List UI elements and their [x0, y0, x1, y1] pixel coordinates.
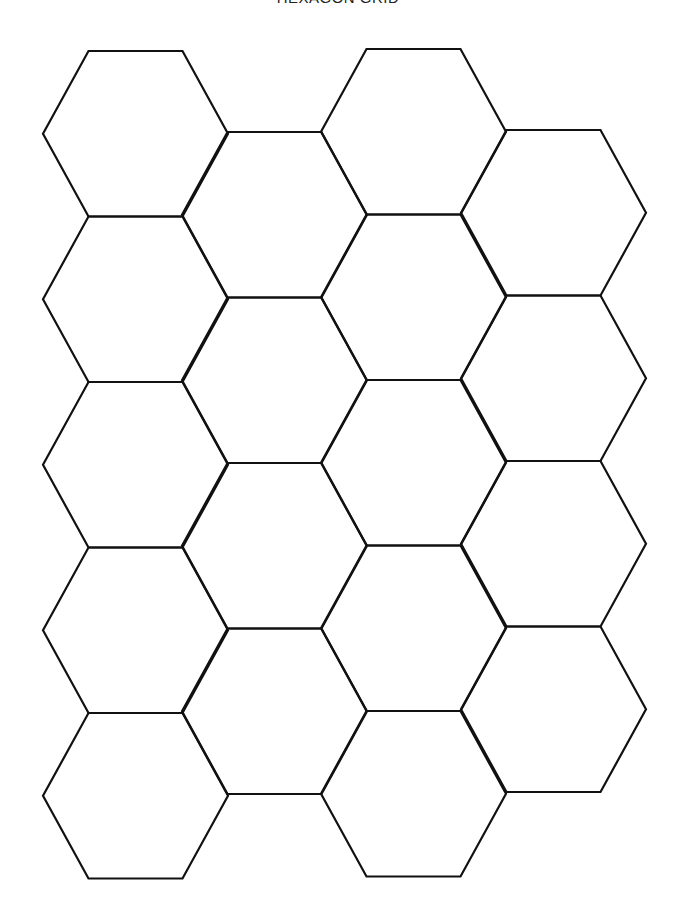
hexagon-cell — [182, 629, 367, 795]
hexagon-cell — [461, 296, 646, 462]
hexagon-cell — [321, 711, 506, 877]
hexagon-cell — [321, 215, 506, 381]
hexagon-cell — [321, 380, 506, 546]
hexagon-cell — [43, 217, 228, 383]
hexagon-cell — [321, 546, 506, 712]
hexagon-cell — [321, 49, 506, 215]
hexagon-cell — [43, 382, 228, 548]
hexagon-cell — [461, 130, 646, 296]
hexagon-cell — [43, 51, 228, 217]
hexagon-cell — [43, 713, 228, 879]
hexagon-cell — [182, 298, 367, 464]
hexagon-cell — [461, 627, 646, 793]
hexagon-cell — [182, 463, 367, 629]
hexagon-cell — [182, 132, 367, 298]
hexagon-cell — [461, 461, 646, 627]
hexagon-grid — [0, 0, 685, 913]
hexagon-cell — [43, 548, 228, 714]
